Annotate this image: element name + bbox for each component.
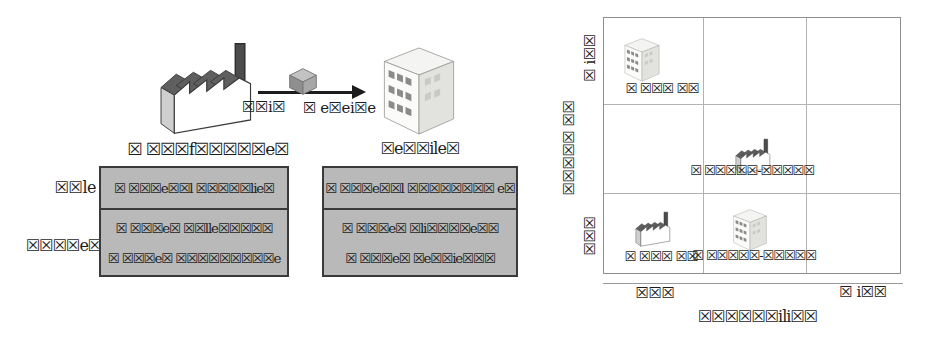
grid-hline-1	[604, 104, 900, 105]
package-icon	[284, 64, 322, 98]
flow-arrowhead	[352, 85, 366, 99]
grid-cell-label: ☒ ☒☒☒ ☒☒	[604, 80, 720, 96]
role-row-label: ☒☒le	[36, 178, 96, 197]
building-icon	[621, 37, 663, 83]
factory-icon	[627, 210, 675, 248]
receive-label: ☒ e☒ei☒e	[303, 99, 376, 117]
retailer-table: ☒ ☒☒☒e☒☒l ☒☒☒☒☒☒☒☒ e☒ ☒ ☒☒☒e☒ ☒li☒☒☒☒e☒☒…	[322, 166, 518, 277]
retailer-role-cell: ☒ ☒☒☒e☒☒l ☒☒☒☒☒☒☒☒ e☒	[324, 168, 516, 210]
grid-cell-label: ☒ ☒☒☒☒☒-☒☒☒☒☒	[689, 163, 815, 178]
grid-hline-2	[604, 193, 900, 194]
process-line: ☒ ☒☒☒e☒ ☒☒lle☒☒☒☒☒	[101, 213, 287, 243]
ship-label: ☒☒i☒	[242, 98, 285, 116]
process-row-label: ☒☒☒☒e☒	[26, 236, 102, 255]
x-axis-low-label: ☒☒☒	[630, 284, 680, 302]
factory-icon	[142, 38, 260, 138]
x-axis-high-label: ☒ i☒☒	[835, 283, 891, 301]
building-icon	[731, 208, 769, 252]
manufacturer-role-cell: ☒ ☒☒☒e☒☒l ☒☒☒☒☒lie☒	[101, 168, 287, 210]
process-line: ☒ ☒☒☒e☒ ☒li☒☒☒☒e☒☒	[324, 213, 516, 243]
manufacturer-caption: ☒ ☒☒☒f☒☒☒☒☒e☒	[118, 139, 298, 159]
grid-cell-label: ☒ ☒☒☒☒☒-☒☒☒☒☒	[691, 248, 817, 263]
retailer-process-cell: ☒ ☒☒☒e☒ ☒li☒☒☒☒e☒☒ ☒ ☒☒☒e☒ ☒e☒☒ie☒☒☒	[324, 210, 516, 273]
process-line: ☒ ☒☒☒e☒ ☒☒☒☒☒☒☒☒☒e	[101, 243, 287, 273]
grid-vline-1	[703, 18, 704, 273]
figure-canvas: ☒☒i☒ ☒ e☒ei☒e ☒ ☒☒☒f☒☒☒☒☒e☒ ☒e☒☒ile☒ ☒☒l…	[0, 0, 941, 340]
process-line: ☒ ☒☒☒e☒ ☒e☒☒ie☒☒☒	[324, 243, 516, 273]
x-axis-title: ☒☒☒☒☒☒ili☒☒	[698, 307, 810, 326]
manufacturer-process-cell: ☒ ☒☒☒e☒ ☒☒lle☒☒☒☒☒ ☒ ☒☒☒e☒ ☒☒☒☒☒☒☒☒☒e	[101, 210, 287, 273]
retailer-caption: ☒e☒☒ile☒	[374, 139, 466, 158]
building-icon	[381, 42, 457, 140]
grid-vline-2	[806, 18, 807, 273]
manufacturer-table: ☒ ☒☒☒e☒☒l ☒☒☒☒☒lie☒ ☒ ☒☒☒e☒ ☒☒lle☒☒☒☒☒ ☒…	[99, 166, 289, 277]
